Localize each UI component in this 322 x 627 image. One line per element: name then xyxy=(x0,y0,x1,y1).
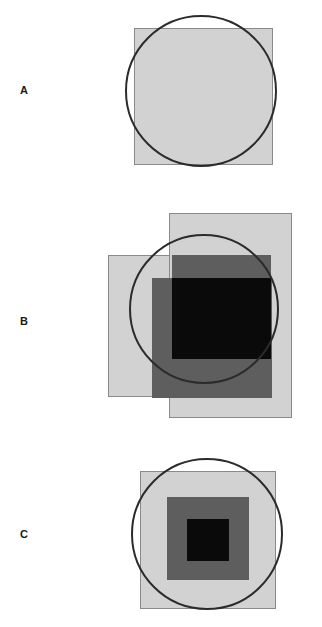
panel-a-label: A xyxy=(14,85,34,96)
panel-c-outline-circle xyxy=(131,458,283,610)
panel-b-label: B xyxy=(14,316,34,327)
panel-b-outline-circle xyxy=(129,234,279,384)
panel-c-label: C xyxy=(14,529,34,540)
figure-canvas: A B C xyxy=(0,0,322,627)
panel-a-outline-circle xyxy=(125,15,277,167)
